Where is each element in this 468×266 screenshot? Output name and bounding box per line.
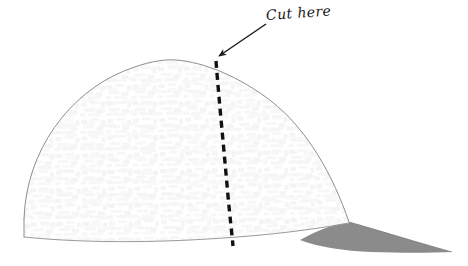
cap-cut-diagram [0,0,468,266]
cap-crown [20,55,360,245]
leader-arrow [219,24,266,56]
illustration-canvas: Cut here [0,0,468,266]
fabric-texture [20,55,360,245]
